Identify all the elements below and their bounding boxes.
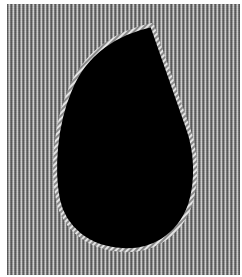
cord-outline [55, 25, 195, 250]
teardrop-cutout [0, 0, 242, 277]
